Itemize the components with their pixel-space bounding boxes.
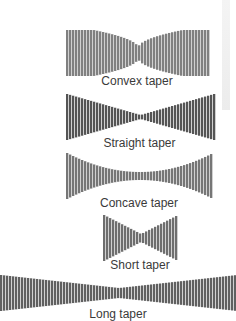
straight-taper-label: Straight taper [103,136,175,150]
short-taper-label: Short taper [110,258,169,272]
concave-taper-shape [66,153,213,199]
straight-taper-shape [66,94,216,140]
convex-taper-shape [66,30,210,76]
long-taper-label: Long taper [89,307,146,321]
convex-taper-label: Convex taper [101,74,172,88]
concave-taper-label: Concave taper [100,196,178,210]
taper-diagram [0,0,236,321]
short-taper-shape [103,215,178,261]
long-taper-shape [0,275,236,311]
